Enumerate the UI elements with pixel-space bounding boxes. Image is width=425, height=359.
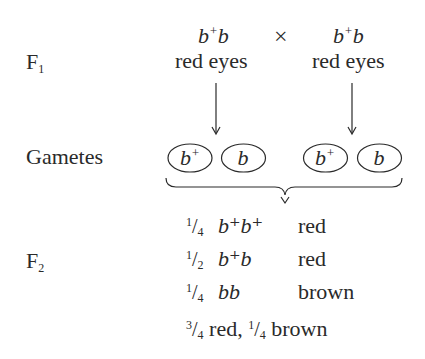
gamete-3: b+ bbox=[303, 147, 347, 172]
diagram-lines bbox=[0, 0, 425, 359]
f2-row-1-fraction: 1/4 bbox=[186, 215, 204, 240]
gamete-4: b bbox=[357, 147, 401, 169]
f2-row-3-fraction: 1/4 bbox=[186, 281, 204, 306]
gamete-2: b bbox=[221, 147, 265, 169]
f2-row-1-phenotype: red bbox=[298, 215, 326, 237]
ratio-summary: 3/4 red, 1/4 brown bbox=[186, 318, 327, 343]
f2-row-1-genotype: b⁺b⁺ bbox=[218, 215, 263, 237]
f2-row-2-phenotype: red bbox=[298, 248, 326, 270]
f2-row-2-genotype: b⁺b bbox=[218, 248, 252, 270]
gamete-1: b+ bbox=[168, 147, 212, 172]
f2-row-2-fraction: 1/2 bbox=[186, 248, 204, 273]
f2-row-3-phenotype: brown bbox=[298, 281, 354, 303]
brace bbox=[166, 178, 402, 195]
f2-row-3-genotype: bb bbox=[218, 281, 240, 303]
